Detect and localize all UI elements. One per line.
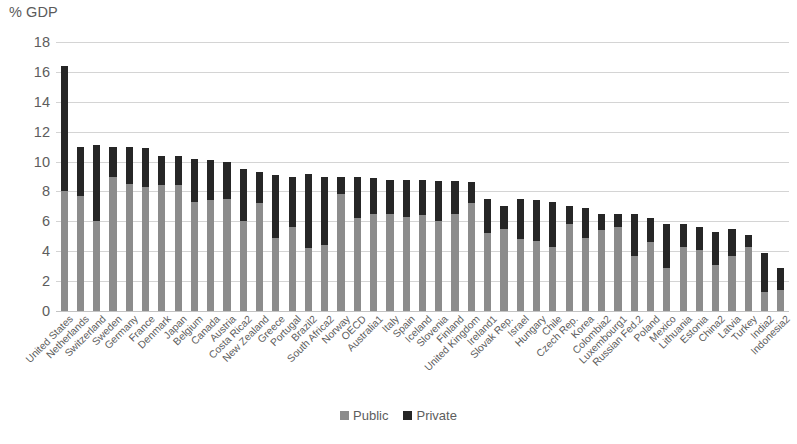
bar-segment-private[interactable] [631, 214, 638, 256]
bar-segment-public[interactable] [142, 187, 149, 311]
bar-segment-public[interactable] [370, 214, 377, 311]
bar-segment-private[interactable] [207, 160, 214, 200]
bar-segment-public[interactable] [272, 238, 279, 311]
bar-group[interactable] [191, 159, 198, 311]
bar-segment-public[interactable] [403, 217, 410, 311]
bar-segment-public[interactable] [468, 203, 475, 311]
bar-segment-private[interactable] [142, 148, 149, 187]
bar-group[interactable] [223, 162, 230, 311]
bar-segment-public[interactable] [175, 185, 182, 311]
bar-group[interactable] [321, 177, 328, 312]
bar-segment-public[interactable] [680, 247, 687, 311]
bar-segment-public[interactable] [223, 199, 230, 311]
bar-segment-public[interactable] [207, 200, 214, 311]
bar-segment-private[interactable] [272, 175, 279, 238]
bar-segment-public[interactable] [728, 256, 735, 311]
bar-group[interactable] [337, 177, 344, 312]
bar-group[interactable] [354, 177, 361, 312]
bar-segment-private[interactable] [728, 229, 735, 256]
bar-segment-private[interactable] [614, 214, 621, 227]
bar-group[interactable] [419, 180, 426, 312]
bar-segment-public[interactable] [191, 202, 198, 311]
bar-group[interactable] [614, 214, 621, 311]
bar-group[interactable] [158, 156, 165, 311]
bar-group[interactable] [566, 206, 573, 311]
bar-group[interactable] [207, 160, 214, 311]
bar-segment-public[interactable] [582, 238, 589, 311]
bar-group[interactable] [289, 177, 296, 312]
bar-segment-public[interactable] [158, 185, 165, 311]
bar-group[interactable] [582, 208, 589, 311]
bar-group[interactable] [647, 218, 654, 311]
bar-group[interactable] [126, 147, 133, 311]
bar-segment-private[interactable] [663, 224, 670, 267]
bar-segment-public[interactable] [289, 227, 296, 311]
bar-segment-private[interactable] [370, 178, 377, 214]
bar-segment-public[interactable] [745, 247, 752, 311]
bar-segment-private[interactable] [240, 169, 247, 221]
bar-segment-private[interactable] [517, 199, 524, 239]
bar-segment-public[interactable] [533, 241, 540, 311]
bar-segment-private[interactable] [598, 214, 605, 230]
bar-segment-private[interactable] [305, 174, 312, 249]
bar-segment-private[interactable] [419, 180, 426, 216]
bar-segment-public[interactable] [240, 221, 247, 311]
bar-group[interactable] [745, 235, 752, 311]
bar-segment-public[interactable] [305, 248, 312, 311]
bar-segment-public[interactable] [647, 242, 654, 311]
bar-group[interactable] [109, 147, 116, 311]
bar-segment-private[interactable] [77, 147, 84, 196]
bar-group[interactable] [256, 172, 263, 311]
bar-group[interactable] [175, 156, 182, 311]
bar-segment-private[interactable] [223, 162, 230, 199]
legend-item[interactable]: Public [340, 409, 388, 422]
bar-group[interactable] [142, 148, 149, 311]
bar-segment-private[interactable] [500, 206, 507, 228]
bar-segment-private[interactable] [647, 218, 654, 242]
bar-segment-private[interactable] [93, 145, 100, 221]
bar-segment-public[interactable] [77, 196, 84, 311]
bar-segment-private[interactable] [566, 206, 573, 224]
bar-segment-public[interactable] [777, 290, 784, 311]
bar-group[interactable] [240, 169, 247, 311]
bar-group[interactable] [549, 202, 556, 311]
bar-group[interactable] [777, 268, 784, 311]
bar-group[interactable] [517, 199, 524, 311]
bar-segment-public[interactable] [256, 203, 263, 311]
bar-segment-private[interactable] [549, 202, 556, 247]
bar-group[interactable] [403, 180, 410, 312]
bar-group[interactable] [451, 181, 458, 311]
bar-segment-public[interactable] [126, 184, 133, 311]
bar-segment-public[interactable] [712, 265, 719, 311]
bar-segment-public[interactable] [419, 215, 426, 311]
bar-segment-private[interactable] [777, 268, 784, 290]
bar-segment-private[interactable] [256, 172, 263, 203]
bar-segment-public[interactable] [451, 214, 458, 311]
bar-segment-public[interactable] [631, 256, 638, 311]
bar-segment-public[interactable] [435, 221, 442, 311]
legend-item[interactable]: Private [403, 409, 456, 422]
bar-group[interactable] [370, 178, 377, 311]
bar-segment-private[interactable] [745, 235, 752, 247]
bar-segment-private[interactable] [435, 181, 442, 221]
bar-group[interactable] [77, 147, 84, 311]
bar-segment-private[interactable] [468, 182, 475, 203]
bar-group[interactable] [598, 214, 605, 311]
bar-segment-public[interactable] [386, 214, 393, 311]
bar-group[interactable] [631, 214, 638, 311]
bar-segment-private[interactable] [680, 224, 687, 246]
bar-segment-private[interactable] [61, 66, 68, 192]
bar-group[interactable] [305, 174, 312, 311]
bar-segment-private[interactable] [451, 181, 458, 214]
bar-segment-private[interactable] [696, 227, 703, 249]
bar-group[interactable] [680, 224, 687, 311]
bar-segment-public[interactable] [354, 218, 361, 311]
bar-segment-private[interactable] [712, 232, 719, 265]
bar-segment-private[interactable] [337, 177, 344, 195]
bar-segment-private[interactable] [354, 177, 361, 219]
bar-segment-public[interactable] [109, 177, 116, 312]
bar-segment-public[interactable] [549, 247, 556, 311]
bar-group[interactable] [533, 200, 540, 311]
bar-segment-public[interactable] [614, 227, 621, 311]
bar-group[interactable] [712, 232, 719, 311]
